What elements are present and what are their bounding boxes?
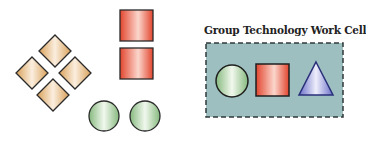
square-shape-bottom xyxy=(120,48,153,79)
work-cell xyxy=(206,43,343,117)
diamond-cluster xyxy=(16,35,91,111)
cell-square-shape xyxy=(256,64,289,96)
diamond-shape-bottom xyxy=(37,79,69,111)
square-shape-top xyxy=(120,10,153,41)
diamond-shape-left xyxy=(16,57,48,89)
circle-shape-left xyxy=(89,101,119,131)
circle-shape-right xyxy=(130,101,160,131)
circle-pair xyxy=(89,101,160,131)
work-cell-title: Group Technology Work Cell xyxy=(204,24,366,36)
diamond-shape-top xyxy=(39,35,71,67)
diamond-shape-right xyxy=(59,57,91,89)
square-stack xyxy=(120,10,153,79)
cell-circle-shape xyxy=(216,65,248,97)
